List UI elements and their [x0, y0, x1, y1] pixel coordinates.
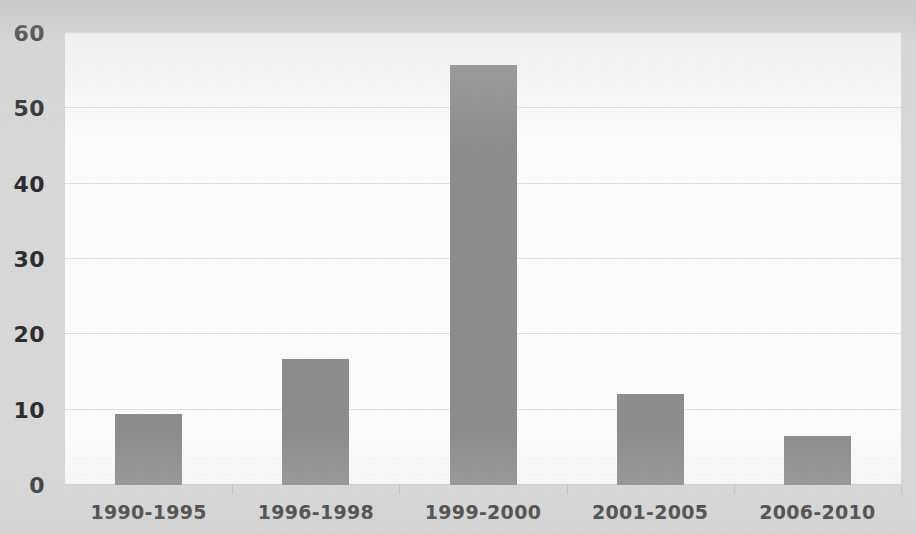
x-axis-tick-label: 1996-1998 — [258, 501, 374, 523]
y-axis: 0102030405060 — [0, 0, 65, 534]
x-axis-tick-label: 2001-2005 — [592, 501, 708, 523]
x-axis-tick-label: 1990-1995 — [90, 501, 206, 523]
x-axis-category: 1990-1995 — [65, 485, 232, 534]
bar-chart-figure: 0102030405060 1990-19951996-19981999-200… — [0, 0, 916, 534]
bar-slot — [734, 33, 901, 485]
bars-group — [65, 33, 901, 485]
y-axis-tick-label: 50 — [13, 96, 45, 121]
x-axis-category: 2001-2005 — [567, 485, 734, 534]
bar[interactable] — [617, 394, 684, 485]
x-axis: 1990-19951996-19981999-20002001-20052006… — [65, 485, 901, 534]
y-axis-tick-label: 40 — [13, 171, 45, 196]
y-axis-tick-label: 30 — [13, 247, 45, 272]
x-axis-tick-label: 1999-2000 — [425, 501, 541, 523]
bar-slot — [232, 33, 399, 485]
y-axis-tick-label: 10 — [13, 397, 45, 422]
x-axis-tick-mark — [901, 485, 902, 494]
bar[interactable] — [450, 65, 517, 485]
x-axis-category: 2006-2010 — [734, 485, 901, 534]
y-axis-tick-label: 0 — [29, 473, 45, 498]
bar[interactable] — [282, 359, 349, 485]
bar-slot — [399, 33, 566, 485]
bar-slot — [65, 33, 232, 485]
y-axis-tick-label: 60 — [13, 21, 45, 46]
x-axis-category: 1996-1998 — [232, 485, 399, 534]
x-axis-category: 1999-2000 — [399, 485, 566, 534]
bar[interactable] — [115, 414, 182, 485]
x-axis-tick-label: 2006-2010 — [759, 501, 875, 523]
bar[interactable] — [784, 436, 851, 485]
y-axis-tick-label: 20 — [13, 322, 45, 347]
bar-slot — [567, 33, 734, 485]
plot-area — [65, 33, 901, 485]
